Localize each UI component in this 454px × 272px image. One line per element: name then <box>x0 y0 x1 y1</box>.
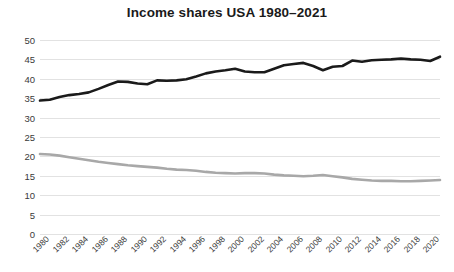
x-tick-label: 2012 <box>343 234 363 254</box>
x-tick-label: 2014 <box>362 234 382 254</box>
y-tick-label: 35 <box>7 93 35 104</box>
y-tick-label: 45 <box>7 54 35 65</box>
line-series-middle-40-percent-share-lower-line <box>40 154 440 181</box>
x-tick-label: 2006 <box>284 234 304 254</box>
y-tick-label: 0 <box>7 229 35 240</box>
x-tick-label: 1984 <box>70 234 90 254</box>
chart-title: Income shares USA 1980–2021 <box>0 5 454 20</box>
x-tick-label: 1986 <box>89 234 109 254</box>
x-tick-label: 1996 <box>187 234 207 254</box>
x-tick-label: 2004 <box>265 234 285 254</box>
y-tick-label: 30 <box>7 112 35 123</box>
x-tick-label: 2020 <box>421 234 441 254</box>
x-tick-label: 1998 <box>206 234 226 254</box>
x-tick-label: 1990 <box>128 234 148 254</box>
y-tick-label: 25 <box>7 132 35 143</box>
x-tick-label: 1992 <box>148 234 168 254</box>
x-tick-label: 2000 <box>226 234 246 254</box>
x-tick-label: 2002 <box>245 234 265 254</box>
line-series-layer <box>40 40 440 234</box>
y-tick-label: 15 <box>7 170 35 181</box>
chart-screenshot: Income shares USA 1980–2021 504540353025… <box>0 0 454 272</box>
plot-area <box>40 40 440 234</box>
x-tick-label: 1994 <box>167 234 187 254</box>
x-tick-label: 1988 <box>109 234 129 254</box>
x-tick-label: 1982 <box>50 234 70 254</box>
y-tick-label: 5 <box>7 209 35 220</box>
x-axis: 1980198219841986198819901992199419961998… <box>40 234 440 272</box>
line-series-top-10-percent-share <box>40 57 440 101</box>
y-tick-label: 20 <box>7 151 35 162</box>
y-tick-label: 10 <box>7 190 35 201</box>
x-tick-label: 2018 <box>401 234 421 254</box>
y-axis: 50454035302520151050 <box>0 40 35 234</box>
x-tick-label: 2008 <box>304 234 324 254</box>
y-tick-label: 50 <box>7 35 35 46</box>
x-tick-label: 2010 <box>323 234 343 254</box>
y-tick-label: 40 <box>7 73 35 84</box>
x-tick-label: 2016 <box>382 234 402 254</box>
